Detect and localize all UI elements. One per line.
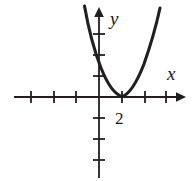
parabola-graph-figure: y x 2 — [0, 0, 192, 181]
coordinate-plane-svg: y x 2 — [0, 0, 192, 181]
y-axis-arrowhead — [94, 7, 104, 17]
vertex-tick-label: 2 — [115, 109, 124, 128]
parabola-curve — [85, 6, 161, 97]
y-axis-label: y — [108, 8, 119, 29]
x-axis-arrowhead — [176, 92, 186, 102]
x-axis-label: x — [166, 63, 176, 84]
